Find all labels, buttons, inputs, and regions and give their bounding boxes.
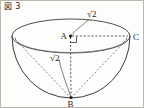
leader-line-ab [59,59,71,96]
length-label-ab: √2 [50,53,59,63]
point-label-c: C [133,32,139,42]
rim-back-arc [12,19,130,36]
length-label-ac: √2 [87,9,96,19]
leader-line-ac [72,19,90,35]
point-label-a: A [61,31,68,41]
figure-container: 図 3 A C B √2 √2 [0,0,144,108]
dashed-segment-b-rim-right [71,38,128,98]
dashed-segment-b-rim-left [14,38,71,98]
point-label-b: B [68,99,74,108]
hemisphere-diagram: A C B √2 √2 [1,1,144,108]
dashed-segment-a-b [71,37,72,96]
right-angle-mark-at-a [71,37,77,43]
